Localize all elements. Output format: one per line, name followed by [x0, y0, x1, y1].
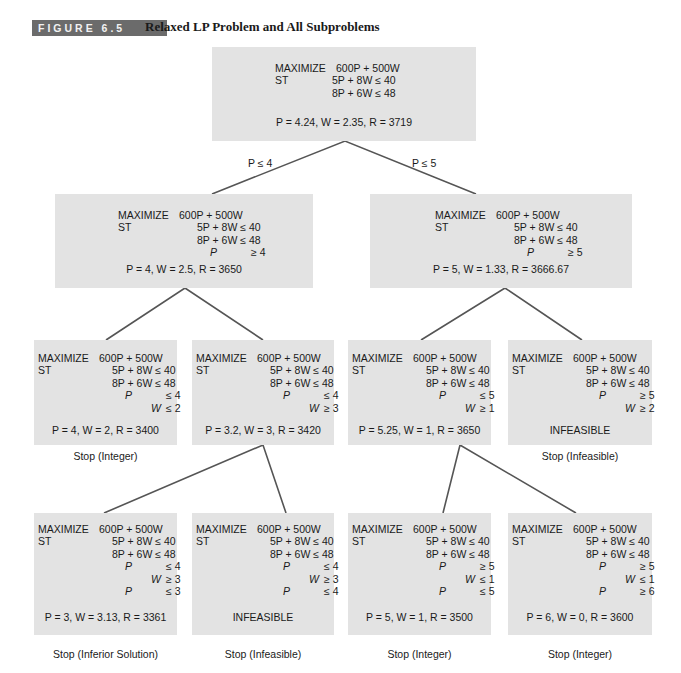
- branch-constraint-row: W≤ 1: [352, 573, 487, 585]
- constraint-var: W: [309, 573, 319, 585]
- constraint-var: P: [439, 389, 446, 401]
- constraint-row: ST5P + 8W ≤ 40: [352, 364, 487, 376]
- constraint-bound: ≤ 2: [166, 402, 181, 414]
- constraint-var: W: [625, 402, 635, 414]
- branch-constraint-row: P≤ 4: [38, 389, 173, 401]
- constraint-row: ST5P + 8W ≤ 40: [275, 74, 472, 86]
- constraint-row: 8P + 6W ≤ 48: [352, 377, 487, 389]
- caption-n4a: Stop (Inferior Solution): [34, 648, 177, 660]
- maximize-label: MAXIMIZE: [275, 62, 326, 74]
- solution-result: P = 5.25, W = 1, R = 3650: [348, 424, 491, 436]
- node-subproblem-3b: MAXIMIZE600P + 500WST5P + 8W ≤ 408P + 6W…: [192, 340, 334, 445]
- infeasible-label: INFEASIBLE: [508, 424, 652, 436]
- constraint-2: 8P + 6W ≤ 48: [197, 234, 261, 246]
- objective-row: MAXIMIZE600P + 500W: [38, 523, 173, 535]
- constraint-var: W: [465, 402, 475, 414]
- constraint-row: 8P + 6W ≤ 48: [512, 548, 648, 560]
- constraint-1: 5P + 8W ≤ 40: [112, 535, 176, 547]
- node-body: MAXIMIZE600P + 500WST5P + 8W ≤ 408P + 6W…: [435, 209, 628, 259]
- maximize-label: MAXIMIZE: [512, 523, 563, 535]
- solution-result: P = 3, W = 3.13, R = 3361: [34, 611, 177, 623]
- constraint-1: 5P + 8W ≤ 40: [332, 74, 396, 86]
- objective-expr: 600P + 500W: [99, 352, 163, 364]
- branch-constraint-row: P≤ 4: [196, 585, 330, 597]
- constraint-var: P: [439, 585, 446, 597]
- constraint-row: ST5P + 8W ≤ 40: [435, 221, 628, 233]
- st-label: ST: [38, 535, 51, 547]
- solution-result: P = 5, W = 1.33, R = 3666.67: [370, 263, 632, 275]
- infeasible-label: INFEASIBLE: [192, 611, 334, 623]
- maximize-label: MAXIMIZE: [352, 523, 403, 535]
- branch-constraint-row: W≥ 3: [38, 573, 173, 585]
- constraint-bound: ≤ 4: [166, 560, 181, 572]
- node-root-relaxed-lp: MAXIMIZE600P + 500WST5P + 8W ≤ 408P + 6W…: [212, 47, 476, 141]
- branch-constraint-row: P≤ 4: [38, 560, 173, 572]
- constraint-row: ST5P + 8W ≤ 40: [512, 364, 648, 376]
- branch-constraint-row: W≥ 3: [196, 573, 330, 585]
- objective-expr: 600P + 500W: [413, 523, 477, 535]
- branch-constraint-row: W≥ 1: [352, 402, 487, 414]
- branch-constraint-row: P≥ 5: [352, 560, 487, 572]
- maximize-label: MAXIMIZE: [196, 352, 247, 364]
- constraint-bound: ≥ 3: [324, 573, 339, 585]
- constraint-bound: ≤ 4: [166, 389, 181, 401]
- solution-result: P = 5, W = 1, R = 3500: [348, 611, 491, 623]
- st-label: ST: [275, 74, 288, 86]
- objective-row: MAXIMIZE600P + 500W: [435, 209, 628, 221]
- branch-constraint-row: P≥ 6: [512, 585, 648, 597]
- constraint-row: ST5P + 8W ≤ 40: [352, 535, 487, 547]
- branch-constraint-row: P≥ 5: [512, 560, 648, 572]
- objective-row: MAXIMIZE600P + 500W: [275, 62, 472, 74]
- objective-expr: 600P + 500W: [99, 523, 163, 535]
- objective-expr: 600P + 500W: [496, 209, 560, 221]
- st-label: ST: [352, 535, 365, 547]
- constraint-var: W: [151, 573, 161, 585]
- constraint-2: 8P + 6W ≤ 48: [270, 377, 334, 389]
- node-body: MAXIMIZE600P + 500WST5P + 8W ≤ 408P + 6W…: [352, 523, 487, 597]
- constraint-var: P: [527, 246, 534, 258]
- constraint-bound: ≥ 4: [251, 246, 266, 258]
- constraint-var: P: [439, 560, 446, 572]
- node-body: MAXIMIZE600P + 500WST5P + 8W ≤ 408P + 6W…: [196, 352, 330, 414]
- branch-constraint-row: W≥ 3: [196, 402, 330, 414]
- constraint-row: ST5P + 8W ≤ 40: [38, 535, 173, 547]
- constraint-bound: ≥ 1: [480, 402, 495, 414]
- branch-constraint-row: P≥ 4: [118, 246, 309, 258]
- objective-row: MAXIMIZE600P + 500W: [512, 352, 648, 364]
- constraint-var: P: [125, 389, 132, 401]
- node-subproblem-4a: MAXIMIZE600P + 500WST5P + 8W ≤ 408P + 6W…: [34, 513, 177, 635]
- constraint-row: 8P + 6W ≤ 48: [275, 87, 472, 99]
- node-subproblem-4c: MAXIMIZE600P + 500WST5P + 8W ≤ 408P + 6W…: [348, 513, 491, 635]
- constraint-2: 8P + 6W ≤ 48: [112, 377, 176, 389]
- st-label: ST: [512, 364, 525, 376]
- constraint-row: ST5P + 8W ≤ 40: [512, 535, 648, 547]
- constraint-row: 8P + 6W ≤ 48: [512, 377, 648, 389]
- maximize-label: MAXIMIZE: [118, 209, 169, 221]
- constraint-2: 8P + 6W ≤ 48: [332, 87, 396, 99]
- objective-row: MAXIMIZE600P + 500W: [38, 352, 173, 364]
- constraint-2: 8P + 6W ≤ 48: [112, 548, 176, 560]
- st-label: ST: [435, 221, 448, 233]
- objective-row: MAXIMIZE600P + 500W: [352, 352, 487, 364]
- constraint-var: W: [465, 573, 475, 585]
- constraint-var: W: [309, 402, 319, 414]
- constraint-row: 8P + 6W ≤ 48: [38, 548, 173, 560]
- constraint-var: W: [625, 573, 635, 585]
- constraint-bound: ≤ 4: [324, 585, 339, 597]
- constraint-var: P: [283, 585, 290, 597]
- node-body: MAXIMIZE600P + 500WST5P + 8W ≤ 408P + 6W…: [196, 523, 330, 597]
- constraint-2: 8P + 6W ≤ 48: [426, 548, 490, 560]
- branch-label-left: P ≤ 4: [248, 157, 272, 169]
- objective-expr: 600P + 500W: [573, 352, 637, 364]
- constraint-1: 5P + 8W ≤ 40: [586, 535, 650, 547]
- constraint-row: ST5P + 8W ≤ 40: [118, 221, 309, 233]
- node-subproblem-p-ge-5: MAXIMIZE600P + 500WST5P + 8W ≤ 408P + 6W…: [370, 194, 632, 288]
- maximize-label: MAXIMIZE: [196, 523, 247, 535]
- constraint-var: P: [283, 560, 290, 572]
- node-subproblem-4b: MAXIMIZE600P + 500WST5P + 8W ≤ 408P + 6W…: [192, 513, 334, 635]
- constraint-bound: ≥ 5: [480, 560, 495, 572]
- constraint-1: 5P + 8W ≤ 40: [426, 364, 490, 376]
- caption-n3a: Stop (Integer): [34, 450, 177, 462]
- constraint-row: ST5P + 8W ≤ 40: [38, 364, 173, 376]
- st-label: ST: [196, 535, 209, 547]
